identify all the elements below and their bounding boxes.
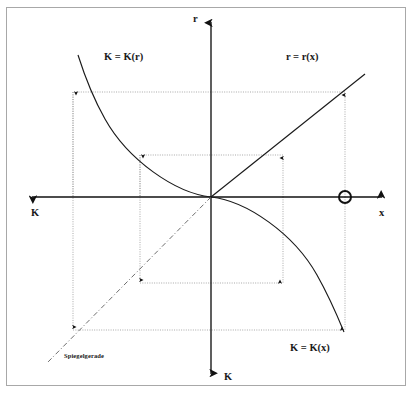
curve-r-of-x — [211, 74, 365, 197]
mirror-line-label: Spiegelgerade — [64, 353, 104, 360]
mirror-line-spiegelgerade — [48, 197, 211, 362]
curve-label-r-of-x: r = r(x) — [286, 52, 319, 63]
axis-label-x-right: x — [379, 208, 384, 219]
curve-label-K-of-x: K = K(x) — [290, 343, 330, 354]
axis-label-K-down: K — [224, 372, 232, 383]
curve-K-of-r — [78, 55, 211, 197]
figure-container: K = K(r) r = r(x) K = K(x) Spiegelgerade… — [0, 0, 414, 401]
axis-label-r-up: r — [193, 14, 198, 25]
curve-label-K-of-r: K = K(r) — [104, 52, 143, 63]
nomogram-plot — [0, 0, 414, 401]
curve-K-of-x — [211, 197, 344, 332]
axis-label-K-left: K — [31, 208, 39, 219]
